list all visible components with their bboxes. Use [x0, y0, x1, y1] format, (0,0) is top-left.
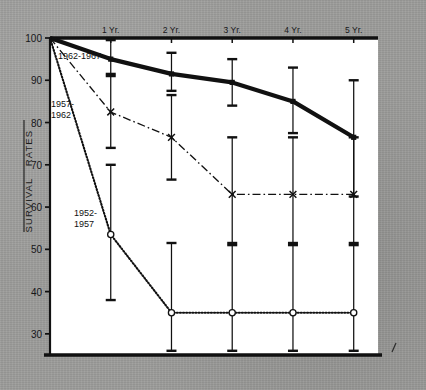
data-point-marker	[108, 231, 114, 237]
annotation-1957-1962-line2: 1962	[51, 110, 71, 120]
chart-svg: 10090807060504030 1 Yr.2 Yr.3 Yr.4 Yr.5 …	[0, 0, 426, 390]
annotation-1957-1962-line1: 1957-	[51, 99, 74, 109]
data-point-marker	[230, 80, 235, 85]
y-tick-label: 100	[25, 33, 42, 44]
data-point-marker	[168, 310, 174, 316]
y-axis-title-line1: SURVIVAL	[23, 178, 34, 233]
data-point-marker	[351, 310, 357, 316]
y-tick-label: 40	[31, 287, 43, 298]
data-point-marker	[169, 71, 174, 76]
data-point-marker	[290, 310, 296, 316]
x-tick-label: 1 Yr.	[102, 25, 119, 35]
y-tick-label: 30	[31, 329, 43, 340]
stray-pen-mark	[392, 343, 396, 352]
y-tick-label: 80	[31, 118, 43, 129]
x-tick-label: 3 Yr.	[224, 25, 241, 35]
data-point-marker	[351, 135, 356, 140]
data-point-marker	[290, 99, 295, 104]
annotation-1952-1957-line2: 1957	[74, 219, 94, 229]
y-tick-label: 50	[31, 244, 43, 255]
y-tick-label: 90	[31, 75, 43, 86]
data-point-marker	[229, 310, 235, 316]
survival-rates-chart-figure: 10090807060504030 1 Yr.2 Yr.3 Yr.4 Yr.5 …	[0, 0, 426, 390]
x-tick-label: 2 Yr.	[163, 25, 180, 35]
annotation-1962-1967-line1: 1962-1967	[58, 51, 101, 61]
y-axis-title-line2: RATES	[23, 130, 34, 166]
x-tick-label: 5 Yr.	[345, 25, 362, 35]
x-tick-label: 4 Yr.	[284, 25, 301, 35]
y-axis-title: SURVIVAL RATES	[23, 120, 34, 232]
data-point-marker	[108, 57, 113, 62]
annotation-1952-1957-line1: 1952-	[74, 208, 97, 218]
